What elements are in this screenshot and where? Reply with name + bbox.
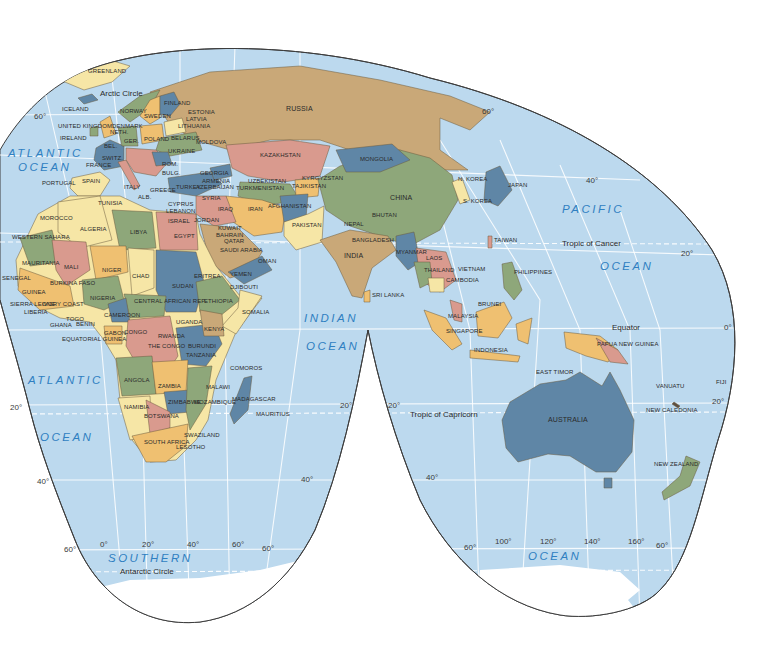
- country-label: PHILIPPINES: [514, 269, 552, 275]
- land-srilanka: [364, 290, 370, 302]
- country-label: TURKMENISTAN: [236, 185, 284, 191]
- country-label: ZAMBIA: [158, 383, 181, 389]
- ocean-label-indian: INDIAN: [304, 312, 358, 324]
- label-equator: Equator: [612, 323, 640, 332]
- ocean-label-pacific: PACIFIC: [562, 203, 624, 215]
- country-label: VANUATU: [656, 383, 684, 389]
- label-tropic-capricorn: Tropic of Capricorn: [410, 410, 478, 419]
- country-label: JAPAN: [508, 182, 527, 188]
- deg-label: 20°: [142, 540, 154, 549]
- country-label: IRELAND: [60, 135, 87, 141]
- country-label: AZERBAIJAN: [196, 184, 234, 190]
- country-label: CONGO: [124, 329, 147, 335]
- deg-label: 20°: [712, 397, 724, 406]
- country-label: GER.: [124, 138, 139, 144]
- country-label: NIGER: [102, 267, 122, 273]
- country-label: SAUDI ARABIA: [220, 247, 263, 253]
- deg-label: 160°: [628, 537, 645, 546]
- deg-label: 60°: [64, 545, 76, 554]
- country-label: ERITREA: [194, 273, 221, 279]
- country-label: OMAN: [258, 258, 276, 264]
- deg-label: 100°: [495, 537, 512, 546]
- country-label: SINGAPORE: [446, 328, 483, 334]
- country-label: VIETNAM: [458, 266, 485, 272]
- label-tropic-cancer: Tropic of Cancer: [562, 239, 621, 248]
- deg-label: 20°: [681, 249, 693, 258]
- country-label: BANGLADESH: [352, 237, 394, 243]
- country-label: COMOROS: [230, 365, 262, 371]
- country-label: LESOTHO: [176, 444, 206, 450]
- country-label: ALB.: [138, 194, 152, 200]
- deg-label: 60°: [482, 107, 494, 116]
- country-label: BULG.: [162, 170, 181, 176]
- country-label: MADAGASCAR: [232, 396, 276, 402]
- country-label: FINLAND: [164, 100, 191, 106]
- country-label: NETH.: [110, 129, 129, 135]
- country-label: GREECE: [150, 187, 176, 193]
- country-label: CENTRAL AFRICAN REP.: [134, 298, 207, 304]
- country-label: GHANA: [50, 322, 72, 328]
- country-label: NAMIBIA: [124, 404, 149, 410]
- country-label: IRAQ: [218, 206, 233, 212]
- country-label: ROM.: [162, 161, 178, 167]
- country-label: NIGERIA: [90, 295, 115, 301]
- country-label: CHAD: [132, 273, 150, 279]
- country-label: ALGERIA: [80, 226, 107, 232]
- country-label: UNITED KINGDOM: [58, 123, 112, 129]
- land-chad: [128, 248, 154, 296]
- ocean-label-atlantic-south-ocean: OCEAN: [40, 431, 93, 443]
- country-label: EAST TIMOR: [536, 369, 574, 375]
- land-taiwan: [488, 236, 492, 248]
- country-label: THAILAND: [424, 267, 455, 273]
- deg-label: 40°: [586, 176, 598, 185]
- deg-label: 60°: [232, 540, 244, 549]
- ocean-label-atlantic-north: ATLANTIC: [7, 147, 83, 159]
- deg-label: 0°: [100, 540, 108, 549]
- deg-label: 40°: [301, 475, 313, 484]
- deg-label: 20°: [340, 401, 352, 410]
- country-label: PORTUGAL: [42, 180, 76, 186]
- country-label: ANGOLA: [124, 377, 150, 383]
- ocean-label-southern-ocean: OCEAN: [528, 550, 581, 562]
- country-label: UKRAINE: [168, 148, 195, 154]
- country-label: ITALY: [124, 184, 140, 190]
- country-label: LITHUANIA: [178, 123, 210, 129]
- country-label: BRUNEI: [478, 301, 502, 307]
- country-label: CAMEROON: [104, 312, 140, 318]
- land-angola: [116, 356, 156, 396]
- country-label: JORDAN: [194, 217, 219, 223]
- country-label: YEMEN: [230, 271, 252, 277]
- country-label: KUWAIT: [218, 225, 242, 231]
- deg-label: 60°: [464, 543, 476, 552]
- country-label: BURUNDI: [188, 343, 216, 349]
- country-label: UZBEKISTAN: [248, 178, 286, 184]
- country-label: MALAYSIA: [448, 313, 478, 319]
- country-label: LAOS: [426, 255, 442, 261]
- country-label: SENEGAL: [2, 275, 32, 281]
- country-label: TURKEY: [176, 184, 201, 190]
- country-label: SRI LANKA: [372, 292, 404, 298]
- country-label: EGYPT: [174, 233, 195, 239]
- country-label: RWANDA: [158, 333, 185, 339]
- country-label: SOMALIA: [242, 309, 269, 315]
- deg-label: 40°: [426, 473, 438, 482]
- country-label: TAJIKISTAN: [292, 183, 326, 189]
- country-label: FRANCE: [86, 162, 111, 168]
- country-label: CYPRUS: [168, 201, 194, 207]
- country-label: QATAR: [224, 238, 245, 244]
- country-label: PAPUA NEW GUINEA: [597, 341, 659, 347]
- country-label: KENYA: [204, 326, 224, 332]
- country-label: RUSSIA: [286, 105, 313, 112]
- country-label: POLAND: [144, 136, 170, 142]
- country-label: BEL.: [104, 143, 118, 149]
- country-label: DJIBOUTI: [230, 284, 258, 290]
- country-label: GEORGIA: [200, 170, 229, 176]
- deg-label: 140°: [584, 537, 601, 546]
- land-cambodia: [428, 278, 444, 292]
- country-label: LEBANON: [166, 208, 195, 214]
- deg-label: 60°: [34, 112, 46, 121]
- ocean-label-atlantic-south: ATLANTIC: [27, 374, 103, 386]
- country-label: MOLDOVA: [196, 139, 226, 145]
- ocean-label-indian-ocean: OCEAN: [306, 340, 359, 352]
- country-label: SWITZ.: [102, 155, 123, 161]
